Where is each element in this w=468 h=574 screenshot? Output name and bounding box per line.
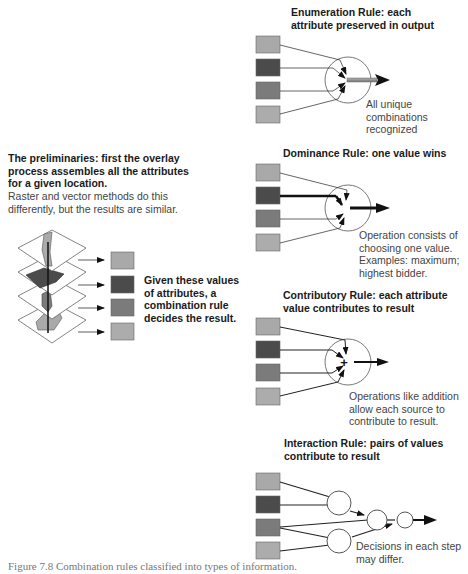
enumeration-rule-note: All unique combinations recognized bbox=[366, 98, 428, 136]
interaction-rule-title: Interaction Rule: pairs of values contri… bbox=[284, 437, 443, 462]
plus-operator-icon: + bbox=[340, 355, 348, 370]
interaction-rule-note: Decisions in each step may differ. bbox=[356, 540, 461, 565]
dominance-rule-note: Operation consists of choosing one value… bbox=[359, 229, 459, 279]
contributory-rule-note: Operations like addition allow each sour… bbox=[349, 390, 459, 428]
stacked-layers-illustration bbox=[18, 230, 86, 343]
figure-caption: Figure 7.8 Combination rules classified … bbox=[8, 560, 297, 572]
attribute-values-left bbox=[111, 252, 134, 340]
contributory-rule-title: Contributory Rule: each attribute value … bbox=[283, 289, 448, 314]
enumeration-rule-title: Enumeration Rule: each attribute preserv… bbox=[291, 6, 434, 31]
preliminaries-heading: The preliminaries: first the overlay pro… bbox=[8, 152, 189, 190]
dominance-rule-title: Dominance Rule: one value wins bbox=[283, 147, 446, 160]
combination-note: Given these values of attributes, a comb… bbox=[144, 274, 239, 324]
preliminaries-body: Raster and vector methods do this differ… bbox=[8, 190, 178, 215]
